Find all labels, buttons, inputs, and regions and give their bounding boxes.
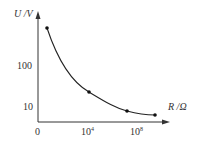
x-axis-arrow-icon (162, 120, 170, 125)
y-tick-10: 10 (23, 101, 33, 112)
y-axis-arrow-icon (36, 11, 41, 19)
data-point (45, 26, 49, 30)
x-axis-label: R /Ω (167, 101, 187, 112)
data-curve (47, 28, 155, 115)
u-r-chart: U /V R /Ω 100 10 0 104 108 (0, 0, 197, 143)
data-point (87, 90, 91, 94)
data-point (125, 109, 129, 113)
y-axis-label: U /V (14, 8, 35, 19)
data-point (153, 113, 157, 117)
x-tick-origin: 0 (35, 126, 40, 137)
y-tick-100: 100 (17, 60, 32, 71)
x-tick-1e4: 104 (81, 126, 94, 137)
x-tick-1e8: 108 (130, 126, 143, 137)
